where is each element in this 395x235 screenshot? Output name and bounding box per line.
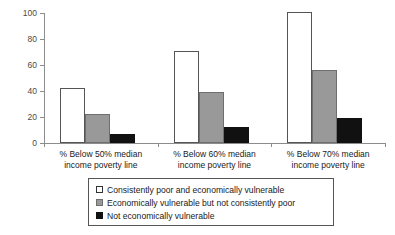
bar <box>199 92 224 143</box>
legend-swatch-icon <box>96 186 103 193</box>
bar <box>312 70 337 143</box>
y-axis-tick-label: 100 <box>23 8 37 18</box>
legend-swatch-icon <box>96 212 103 219</box>
x-axis-category-label: % Below 50% medianincome poverty line <box>38 149 164 171</box>
legend-item: Economically vulnerable but not consiste… <box>96 196 333 209</box>
category-label-line: income poverty line <box>152 160 278 171</box>
chart-legend: Consistently poor and economically vulne… <box>88 178 334 226</box>
bar <box>287 12 312 143</box>
y-axis-line <box>44 13 45 144</box>
legend-item: Not economically vulnerable <box>96 209 333 222</box>
legend-item-label: Not economically vulnerable <box>107 211 214 221</box>
bar <box>60 88 85 143</box>
category-label-line: % Below 70% median <box>265 149 391 160</box>
y-axis-tick-label: 80 <box>28 34 37 44</box>
plot-area: 020406080100 <box>44 13 385 143</box>
x-axis-tick <box>44 143 45 147</box>
bar <box>110 134 135 143</box>
x-axis-category-label: % Below 60% medianincome poverty line <box>152 149 278 171</box>
y-axis-tick <box>40 13 44 14</box>
category-label-line: % Below 50% median <box>38 149 164 160</box>
y-axis-tick <box>40 39 44 40</box>
y-axis-tick <box>40 65 44 66</box>
chart-title-clipped <box>0 0 395 1</box>
category-label-line: income poverty line <box>38 160 164 171</box>
y-axis-tick <box>40 117 44 118</box>
legend-item-label: Consistently poor and economically vulne… <box>107 185 284 195</box>
bar <box>85 114 110 143</box>
x-axis-tick <box>385 143 386 147</box>
y-axis-tick-label: 20 <box>28 112 37 122</box>
category-label-line: income poverty line <box>265 160 391 171</box>
bar <box>337 118 362 143</box>
bar <box>224 127 249 143</box>
y-axis-tick-label: 0 <box>32 138 37 148</box>
y-axis-tick-label: 40 <box>28 86 37 96</box>
x-axis-tick <box>271 143 272 147</box>
bar <box>174 51 199 143</box>
category-label-line: % Below 60% median <box>152 149 278 160</box>
y-axis-tick-label: 60 <box>28 60 37 70</box>
bar-chart: 020406080100 % Below 50% medianincome po… <box>0 0 395 235</box>
x-axis-category-label: % Below 70% medianincome poverty line <box>265 149 391 171</box>
legend-item-label: Economically vulnerable but not consiste… <box>107 198 295 208</box>
y-axis-tick <box>40 91 44 92</box>
legend-item: Consistently poor and economically vulne… <box>96 183 333 196</box>
x-axis-tick <box>158 143 159 147</box>
legend-swatch-icon <box>96 199 103 206</box>
x-axis-line <box>44 143 385 144</box>
